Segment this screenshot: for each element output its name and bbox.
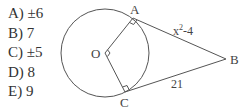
radius-oc — [105, 53, 125, 92]
label-b: B — [230, 52, 239, 67]
label-c: C — [120, 95, 129, 110]
radius-oa — [105, 18, 133, 53]
label-ab-length: x2-4 — [173, 23, 193, 38]
angle-mark-o — [108, 50, 111, 57]
ab-rest: -4 — [183, 24, 193, 38]
label-cb-length: 21 — [171, 77, 183, 91]
geometry-diagram: A O B C x2-4 21 — [0, 0, 244, 110]
label-o: O — [91, 46, 100, 61]
label-a: A — [130, 2, 140, 17]
